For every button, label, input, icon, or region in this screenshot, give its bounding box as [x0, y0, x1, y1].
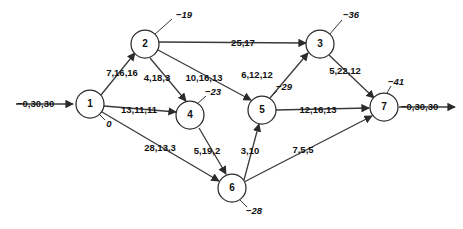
node-1[interactable]: 1 [76, 90, 104, 118]
node-label-4: 4 [187, 109, 193, 120]
edge-label-1-4: 13,11,11 [121, 104, 158, 115]
node-6[interactable]: 6 [218, 174, 246, 202]
nodes-layer: 1234567 [76, 30, 398, 202]
edge-label-6-5: 3,10 [241, 145, 260, 156]
supply-leader-7 [387, 86, 391, 93]
sink-outflow-label: −0,30,30 [401, 101, 438, 112]
network-graph-canvas: 1234567 7,16,1613,11,1128,13,325,174,18,… [0, 0, 463, 229]
node-label-1: 1 [87, 98, 93, 109]
node-supply-1: 0 [106, 118, 112, 129]
supply-leader-4 [197, 96, 206, 104]
node-label-7: 7 [381, 101, 387, 112]
edge-label-2-4: 4,18,3 [144, 72, 170, 83]
edge-label-4-6: 5,19,2 [194, 145, 220, 156]
node-supply-5: −29 [276, 81, 293, 92]
node-label-5: 5 [259, 104, 265, 115]
node-5[interactable]: 5 [248, 96, 276, 124]
edge-label-5-7: 12,16,13 [300, 104, 337, 115]
node-7[interactable]: 7 [370, 93, 398, 121]
supply-leader-1 [99, 114, 105, 120]
edge-label-2-5: 10,16,13 [186, 72, 223, 83]
edge-label-2-3: 25,17 [231, 37, 255, 48]
edge-label-6-7: 7,5,5 [292, 144, 314, 155]
node-supply-3: −36 [343, 9, 360, 20]
supply-leader-2 [154, 19, 172, 35]
node-label-3: 3 [317, 38, 323, 49]
node-label-2: 2 [142, 38, 148, 49]
edge-label-1-6: 28,13,3 [144, 142, 176, 153]
supply-leader-3 [329, 20, 342, 35]
node-supply-6: −28 [246, 205, 263, 216]
node-label-6: 6 [229, 182, 235, 193]
edge-3-to-7 [329, 55, 374, 98]
node-supply-4: −23 [205, 86, 222, 97]
node-supply-7: −41 [388, 76, 404, 87]
edge-label-1-2: 7,16,16 [106, 67, 138, 78]
edge-label-3-7: 5,22,12 [329, 65, 361, 76]
supply-leader-5 [269, 91, 277, 99]
node-3[interactable]: 3 [306, 30, 334, 58]
node-2[interactable]: 2 [131, 30, 159, 58]
node-supply-2: −19 [176, 9, 193, 20]
node-4[interactable]: 4 [176, 101, 204, 129]
source-inflow-label: −0,30,30 [17, 98, 54, 109]
edge-label-5-3: 6,12,12 [241, 69, 273, 80]
network-flow-diagram: 1234567 7,16,1613,11,1128,13,325,174,18,… [0, 0, 463, 229]
